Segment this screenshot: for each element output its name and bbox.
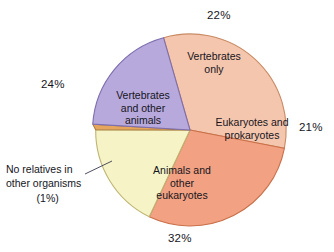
slice-label-line: other [139,177,225,190]
slice-label-line: eukaryotes [139,189,225,202]
slice-label-line: animals [104,114,182,127]
percent-label-animals-eukaryotes: 32% [168,232,192,244]
slice-label-line: Animals and [139,164,225,177]
slice-label-line: Eukaryotes and [209,116,295,129]
slice-label-animals-eukaryotes: Animals and other eukaryotes [139,164,225,202]
slice-label-line: prokaryotes [209,129,295,142]
percent-label-vertebrates-only: 22% [207,9,231,21]
callout-label-line: other organisms [6,177,81,191]
pie-chart-figure: 22% 24% 21% 32% Vertebrates only Eukaryo… [0,0,334,252]
callout-percent-no-relatives: (1%) [6,190,81,206]
callout-label-no-relatives: No relatives in other organisms (1%) [6,163,81,206]
percent-label-eukaryotes-prokaryotes: 21% [299,121,323,133]
slice-label-line: and other [104,102,182,115]
percent-label-vertebrates-other-animals: 24% [41,78,65,90]
callout-label-line: No relatives in [6,163,81,177]
slice-label-line: only [176,63,252,76]
slice-label-vertebrates-other-animals: Vertebrates and other animals [104,89,182,127]
slice-label-line: Vertebrates [104,89,182,102]
slice-label-vertebrates-only: Vertebrates only [176,50,252,75]
slice-label-eukaryotes-prokaryotes: Eukaryotes and prokaryotes [209,116,295,141]
slice-label-line: Vertebrates [176,50,252,63]
